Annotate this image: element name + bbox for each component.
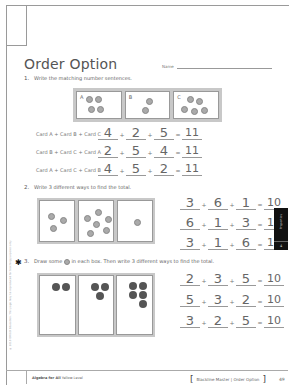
card-3	[116, 275, 153, 335]
dot-icon	[52, 283, 60, 291]
answer-blank[interactable]: 1	[236, 196, 256, 210]
dot-icon	[139, 300, 147, 308]
copyright-notice: © 2010 ORIGO Education. This page may be…	[9, 200, 12, 350]
corner-box	[6, 5, 27, 46]
total-blank[interactable]: 11	[182, 144, 202, 158]
card-2	[78, 200, 114, 242]
answer-blank[interactable]: 2	[98, 144, 118, 158]
dot-icon	[139, 291, 147, 299]
footer-divider	[6, 370, 288, 371]
dot-icon	[96, 292, 104, 300]
footer-source: [ Blackline Master | Order Option ] 49	[190, 374, 285, 384]
dot-icon	[187, 96, 194, 103]
dot-icon	[86, 96, 93, 103]
dot-icon	[87, 230, 94, 237]
name-line[interactable]	[177, 62, 272, 69]
answer-blank[interactable]: 2	[208, 314, 228, 328]
answer-blank[interactable]: 1	[208, 216, 228, 230]
name-field[interactable]: Name	[162, 62, 272, 69]
answer-blank[interactable]: 3	[208, 272, 228, 286]
answer-blank[interactable]: 3	[180, 314, 200, 328]
answer-blank[interactable]: 5	[126, 144, 146, 158]
answer-blank[interactable]: 5	[236, 272, 256, 286]
dot-icon	[95, 209, 102, 216]
question-3-prompt: 3.Draw some in each box. Then write 3 di…	[24, 258, 214, 265]
answer-blank[interactable]: 6	[236, 236, 256, 250]
card-1	[39, 200, 75, 242]
dot-icon	[181, 106, 188, 113]
answer-blank[interactable]: 4	[154, 144, 174, 158]
card-set-3	[37, 273, 155, 337]
dot-icon	[142, 107, 149, 114]
page-number: 49	[279, 377, 285, 382]
q2-equation-row: 3 + 6 + 1 = 10	[180, 196, 284, 210]
q3-equation-row: 2 + 3 + 5 = 10	[180, 272, 284, 286]
dot-icon	[97, 106, 104, 113]
total-blank[interactable]: 10	[264, 293, 284, 307]
q3-equation-row: 5 + 3 + 2 = 10	[180, 293, 284, 307]
name-label: Name	[162, 64, 174, 69]
answer-blank[interactable]: 1	[208, 236, 228, 250]
footer-series: Algebra for All Yellow Level	[32, 376, 83, 380]
dot-icon	[50, 225, 57, 232]
card-a: A	[76, 91, 122, 119]
card-b: B	[125, 91, 171, 119]
answer-blank[interactable]: 2	[154, 162, 174, 176]
dot-icon	[105, 216, 112, 223]
total-blank[interactable]: 10	[264, 272, 284, 286]
answer-blank[interactable]: 2	[126, 126, 146, 140]
section-tab: Properties 4	[274, 208, 288, 250]
page-title: Order Option	[24, 56, 117, 72]
q2-equation-row: 3 + 1 + 6 = 10	[180, 236, 284, 250]
dot-icon	[48, 213, 55, 220]
q2-equation-row: 6 + 1 + 3 = 10	[180, 216, 284, 230]
answer-blank[interactable]: 5	[126, 162, 146, 176]
footer-vertical-divider	[26, 370, 27, 384]
answer-blank[interactable]: 2	[236, 293, 256, 307]
card-1	[39, 275, 76, 335]
card-2	[78, 275, 115, 335]
answer-blank[interactable]: 4	[98, 126, 118, 140]
card-3	[117, 200, 153, 242]
dot-icon	[201, 107, 208, 114]
answer-blank[interactable]: 3	[236, 216, 256, 230]
total-blank[interactable]: 11	[182, 126, 202, 140]
dot-icon	[129, 282, 137, 290]
question-2-prompt: 2.Write 3 different ways to find the tot…	[24, 184, 131, 190]
counter-dot-icon	[64, 259, 70, 265]
answer-blank[interactable]: 6	[208, 196, 228, 210]
dot-icon	[134, 219, 141, 226]
dot-icon	[88, 106, 95, 113]
answer-blank[interactable]: 5	[180, 293, 200, 307]
dot-icon	[60, 217, 67, 224]
answer-blank[interactable]: 3	[180, 196, 200, 210]
total-blank[interactable]: 11	[182, 162, 202, 176]
dot-icon	[103, 227, 110, 234]
challenge-star-icon: ✱	[15, 258, 22, 267]
dot-icon	[91, 283, 99, 291]
answer-blank[interactable]: 5	[236, 314, 256, 328]
answer-blank[interactable]: 5	[154, 126, 174, 140]
question-1-prompt: 1.Write the matching number sentences.	[24, 75, 132, 81]
q3-equation-row: 3 + 2 + 5 = 10	[180, 314, 284, 328]
dot-icon	[139, 282, 147, 290]
dot-icon	[93, 221, 100, 228]
card-set-1: A B C	[73, 88, 222, 122]
dot-icon	[95, 96, 102, 103]
answer-blank[interactable]: 3	[208, 293, 228, 307]
q1-equation-row: Card A + Card B + Card C 4 + 2 + 5 = 11	[36, 126, 202, 140]
card-c: C	[173, 91, 219, 119]
total-blank[interactable]: 10	[264, 314, 284, 328]
dot-icon	[84, 215, 91, 222]
card-set-2	[37, 198, 155, 244]
dot-icon	[101, 283, 109, 291]
dot-icon	[62, 283, 70, 291]
answer-blank[interactable]: 3	[180, 236, 200, 250]
answer-blank[interactable]: 6	[180, 216, 200, 230]
q1-equation-row: Card A + Card C + Card B 4 + 5 + 2 = 11	[36, 162, 202, 176]
dot-icon	[129, 291, 137, 299]
answer-blank[interactable]: 4	[98, 162, 118, 176]
answer-blank[interactable]: 2	[180, 272, 200, 286]
q1-equation-row: Card B + Card C + Card A 2 + 5 + 4 = 11	[36, 144, 202, 158]
dot-icon	[191, 108, 198, 115]
